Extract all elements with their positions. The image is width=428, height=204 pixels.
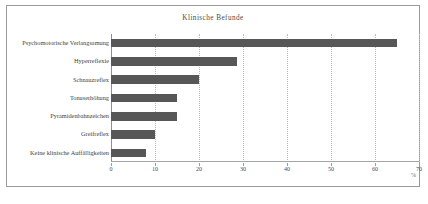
tick-label-0: 0 bbox=[109, 166, 112, 172]
bar bbox=[111, 57, 237, 66]
bar bbox=[111, 149, 146, 158]
bar bbox=[111, 75, 199, 84]
bar-row bbox=[111, 57, 419, 66]
category-label: Tonuserhöhung bbox=[70, 95, 109, 101]
category-label: Keine klinische Auffälligkeiten bbox=[30, 150, 109, 156]
gridline-70 bbox=[419, 34, 420, 162]
category-label: Pyramidenbahnzeichen bbox=[50, 113, 109, 119]
bar-row bbox=[111, 130, 419, 139]
tick-label-30: 30 bbox=[240, 166, 246, 172]
x-axis-unit-label: % bbox=[411, 172, 416, 178]
bar bbox=[111, 112, 177, 121]
category-label: Greifreflex bbox=[81, 131, 109, 137]
chart-figure: Klinische Befunde Psychomotorische Verla… bbox=[6, 5, 420, 187]
category-label: Psychomotorische Verlangsamung bbox=[22, 40, 109, 46]
tick-label-60: 60 bbox=[372, 166, 378, 172]
tick-label-40: 40 bbox=[284, 166, 290, 172]
tick-label-10: 10 bbox=[152, 166, 158, 172]
bar-row bbox=[111, 39, 419, 48]
bar bbox=[111, 94, 177, 103]
category-label: Schnauzreflex bbox=[73, 77, 109, 83]
plot-area bbox=[111, 34, 419, 162]
bar bbox=[111, 39, 397, 48]
figure-caption-cropped bbox=[8, 197, 258, 204]
chart-title: Klinische Befunde bbox=[7, 14, 419, 22]
category-axis-labels: Psychomotorische VerlangsamungHyperrefle… bbox=[7, 34, 109, 162]
bar-row bbox=[111, 75, 419, 84]
category-label: Hyperreflexie bbox=[74, 58, 109, 64]
bar-series bbox=[111, 34, 419, 162]
tick-label-20: 20 bbox=[196, 166, 202, 172]
bar-row bbox=[111, 149, 419, 158]
tick-label-70: 70 bbox=[416, 166, 422, 172]
bar-row bbox=[111, 94, 419, 103]
bar-row bbox=[111, 112, 419, 121]
bar bbox=[111, 130, 155, 139]
tick-label-50: 50 bbox=[328, 166, 334, 172]
x-axis-ticks: 010203040506070 bbox=[111, 162, 419, 178]
